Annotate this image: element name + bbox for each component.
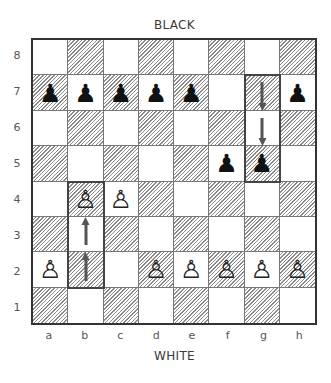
square-c1: [104, 288, 139, 323]
square-e2: ♙: [174, 252, 209, 287]
square-f3: [209, 217, 244, 252]
square-a2: ♙: [33, 252, 68, 287]
square-d1: [139, 288, 174, 323]
square-a4: [33, 182, 68, 217]
square-c4: ♙: [104, 182, 139, 217]
square-e5: [174, 146, 209, 181]
square-f4: [209, 182, 244, 217]
white-pawn-icon: ♙: [145, 257, 167, 282]
square-h6: [280, 111, 315, 146]
white-pawn-icon: ♙: [250, 257, 272, 282]
file-label: f: [210, 327, 246, 343]
square-b7: ♟: [68, 75, 103, 110]
square-b6: [68, 111, 103, 146]
square-a8: [33, 40, 68, 75]
square-h5: [280, 146, 315, 181]
square-b1: [68, 288, 103, 323]
black-pawn-icon: ♟: [250, 151, 272, 176]
file-label: h: [281, 327, 317, 343]
rank-labels: 8 7 6 5 4 3 2 1: [10, 38, 24, 325]
white-pawn-icon: ♙: [74, 186, 96, 211]
square-h3: [280, 217, 315, 252]
square-h1: [280, 288, 315, 323]
square-c6: [104, 111, 139, 146]
square-f2: ♙: [209, 252, 244, 287]
rank-label: 8: [10, 38, 24, 74]
arrow-down-icon: [261, 82, 264, 103]
square-a3: [33, 217, 68, 252]
square-e8: [174, 40, 209, 75]
file-label: b: [67, 327, 103, 343]
square-f1: [209, 288, 244, 323]
black-pawn-icon: ♟: [109, 80, 131, 105]
white-pawn-icon: ♙: [109, 186, 131, 211]
file-label: d: [138, 327, 174, 343]
file-labels: a b c d e f g h: [31, 327, 317, 343]
square-f5: ♟: [209, 146, 244, 181]
arrow-down-icon: [261, 118, 264, 139]
white-pawn-icon: ♙: [286, 257, 308, 282]
square-d4: [139, 182, 174, 217]
square-a6: [33, 111, 68, 146]
square-c8: [104, 40, 139, 75]
black-pawn-icon: ♟: [215, 151, 237, 176]
arrow-up-icon: [84, 259, 87, 280]
black-pawn-icon: ♟: [74, 80, 96, 105]
square-a5: [33, 146, 68, 181]
square-d7: ♟: [139, 75, 174, 110]
file-label: a: [31, 327, 67, 343]
black-pawn-icon: ♟: [286, 80, 308, 105]
square-g5: ♟: [245, 146, 280, 181]
square-c2: [104, 252, 139, 287]
square-h2: ♙: [280, 252, 315, 287]
rank-label: 2: [10, 253, 24, 289]
file-label: c: [103, 327, 139, 343]
square-b5: [68, 146, 103, 181]
square-g8: [245, 40, 280, 75]
square-e6: [174, 111, 209, 146]
file-label: e: [174, 327, 210, 343]
square-a1: [33, 288, 68, 323]
square-g1: [245, 288, 280, 323]
square-g3: [245, 217, 280, 252]
square-e1: [174, 288, 209, 323]
white-side-label: WHITE: [0, 349, 331, 363]
square-b4: ♙: [68, 182, 103, 217]
black-pawn-icon: ♟: [180, 80, 202, 105]
square-b8: [68, 40, 103, 75]
square-c3: [104, 217, 139, 252]
rank-label: 4: [10, 182, 24, 218]
square-h4: [280, 182, 315, 217]
chess-board: ♟♟♟♟♟♟♟♟♙♙♙♙♙♙♙♙: [31, 38, 317, 325]
white-pawn-icon: ♙: [180, 257, 202, 282]
square-e7: ♟: [174, 75, 209, 110]
square-d2: ♙: [139, 252, 174, 287]
square-a7: ♟: [33, 75, 68, 110]
square-d6: [139, 111, 174, 146]
black-side-label: BLACK: [0, 18, 331, 32]
arrow-up-icon: [84, 224, 87, 245]
white-pawn-icon: ♙: [39, 257, 61, 282]
square-f6: [209, 111, 244, 146]
rank-label: 1: [10, 289, 24, 325]
black-pawn-icon: ♟: [145, 80, 167, 105]
square-f7: [209, 75, 244, 110]
square-d3: [139, 217, 174, 252]
square-e3: [174, 217, 209, 252]
white-pawn-icon: ♙: [215, 257, 237, 282]
black-pawn-icon: ♟: [39, 80, 61, 105]
square-g4: [245, 182, 280, 217]
square-d8: [139, 40, 174, 75]
square-f8: [209, 40, 244, 75]
square-e4: [174, 182, 209, 217]
square-c7: ♟: [104, 75, 139, 110]
rank-label: 6: [10, 110, 24, 146]
rank-label: 3: [10, 217, 24, 253]
rank-label: 7: [10, 74, 24, 110]
square-g2: ♙: [245, 252, 280, 287]
square-c5: [104, 146, 139, 181]
file-label: g: [246, 327, 282, 343]
square-d5: [139, 146, 174, 181]
square-h7: ♟: [280, 75, 315, 110]
rank-label: 5: [10, 146, 24, 182]
